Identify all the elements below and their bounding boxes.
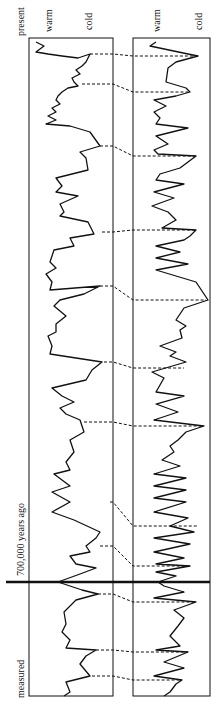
correlation-line [100, 146, 196, 156]
label-right-warm: warm [151, 9, 162, 32]
correlation-line [82, 84, 190, 92]
chart-canvas: present measured 700,000 years ago warm … [0, 0, 218, 706]
left-panel-frame [29, 38, 113, 696]
correlation-line [90, 54, 198, 56]
label-left-warm: warm [43, 9, 54, 32]
label-700k: 700,000 years ago [15, 503, 26, 576]
label-left-cold: cold [83, 13, 94, 30]
right-panel-frame [133, 38, 210, 696]
label-present: present [15, 7, 26, 36]
label-measured: measured [15, 660, 26, 698]
correlation-line [100, 286, 206, 300]
correlation-lines [82, 54, 206, 680]
right-record-line [150, 42, 208, 696]
label-right-cold: cold [193, 13, 204, 30]
correlation-line [104, 362, 184, 368]
correlation-line [102, 230, 196, 232]
correlation-line [110, 502, 198, 526]
left-record-line [36, 42, 102, 696]
